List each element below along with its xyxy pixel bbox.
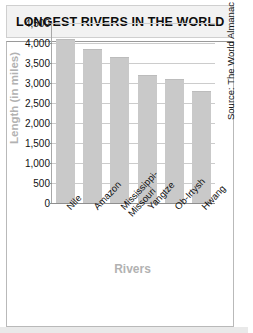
source-note: Source: The World Almanac [225, 2, 236, 120]
y-tick-label: 0 [12, 198, 50, 209]
plot-area [51, 23, 215, 204]
bar-series [52, 23, 215, 203]
y-tick-label: 500 [12, 178, 50, 189]
bar-slot [106, 23, 133, 203]
y-tick-mark [48, 143, 52, 144]
y-tick-label: 3,000 [12, 78, 50, 89]
right-edge [248, 0, 253, 333]
y-tick-mark [48, 23, 52, 24]
bar [83, 49, 102, 203]
y-tick-label: 1,500 [12, 138, 50, 149]
y-tick-mark [48, 103, 52, 104]
bottom-edge [0, 327, 253, 333]
x-axis-label: Rivers [51, 262, 214, 276]
bar-slot [161, 23, 188, 203]
y-tick-mark [48, 123, 52, 124]
y-tick-mark [48, 203, 52, 204]
y-tick-mark [48, 63, 52, 64]
y-tick-mark [48, 183, 52, 184]
y-tick-label: 2,500 [12, 98, 50, 109]
y-tick-label: 4,000 [12, 38, 50, 49]
y-tick-mark [48, 43, 52, 44]
bar-slot [188, 23, 215, 203]
y-tick-mark [48, 83, 52, 84]
bar [56, 39, 75, 203]
y-tick-label: 4,500 [12, 18, 50, 29]
y-tick-mark [48, 163, 52, 164]
y-tick-label: 1,000 [12, 158, 50, 169]
bar-slot [79, 23, 106, 203]
y-tick-label: 2,000 [12, 118, 50, 129]
chart-page: LONGEST RIVERS IN THE WORLD Length (in m… [0, 0, 253, 333]
y-tick-label: 3,500 [12, 58, 50, 69]
y-axis-ticks: 05001,0001,5002,0002,5003,0003,5004,0004… [12, 23, 50, 203]
bar-slot [52, 23, 79, 203]
